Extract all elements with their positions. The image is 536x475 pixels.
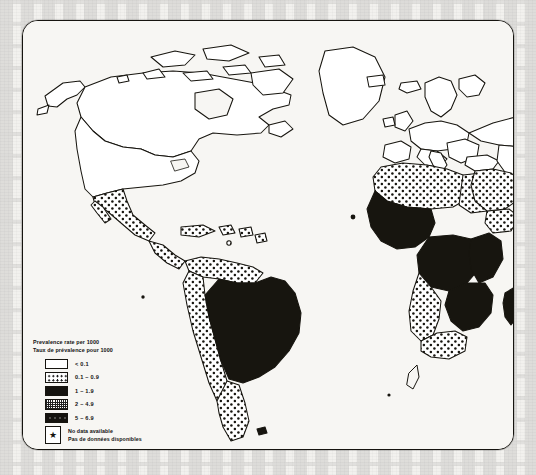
legend-swatch-dots [45, 372, 68, 383]
legend-label-class-4: 2 – 4.9 [75, 401, 94, 407]
legend-row-no-data: ★ No data available Pas de données dispo… [33, 426, 223, 445]
legend-label-class-1: < 0.1 [75, 361, 89, 367]
legend-label-class-2: 0.1 – 0.9 [75, 374, 99, 380]
legend-swatch-checker [45, 399, 68, 410]
legend-row-class-1: < 0.1 [33, 357, 223, 371]
legend-swatch-no-data: ★ [45, 426, 61, 444]
legend-label-class-5: 5 – 6.9 [75, 415, 94, 421]
legend-class-list: < 0.1 0.1 – 0.9 1 – 1.9 2 – 4.9 5 – 6.9 [33, 357, 223, 445]
map-legend: Prevalence rate per 1000 Taux de prévale… [33, 339, 223, 445]
star-icon: ★ [49, 431, 57, 440]
legend-row-class-4: 2 – 4.9 [33, 398, 223, 412]
map-figure-frame: Prevalence rate per 1000 Taux de prévale… [22, 20, 514, 450]
legend-row-class-5: 5 – 6.9 [33, 411, 223, 425]
legend-no-data-label-en: No data available [68, 427, 142, 435]
legend-row-class-3: 1 – 1.9 [33, 384, 223, 398]
legend-row-class-2: 0.1 – 0.9 [33, 371, 223, 385]
legend-title-fr: Taux de prévalence pour 1000 [33, 347, 223, 355]
legend-title-en: Prevalence rate per 1000 [33, 339, 223, 347]
legend-label-class-3: 1 – 1.9 [75, 388, 94, 394]
legend-swatch-blank [45, 359, 68, 370]
legend-no-data-label-fr: Pas de données disponibles [68, 435, 142, 443]
legend-swatch-solid [45, 386, 68, 397]
legend-swatch-dark [45, 413, 68, 424]
